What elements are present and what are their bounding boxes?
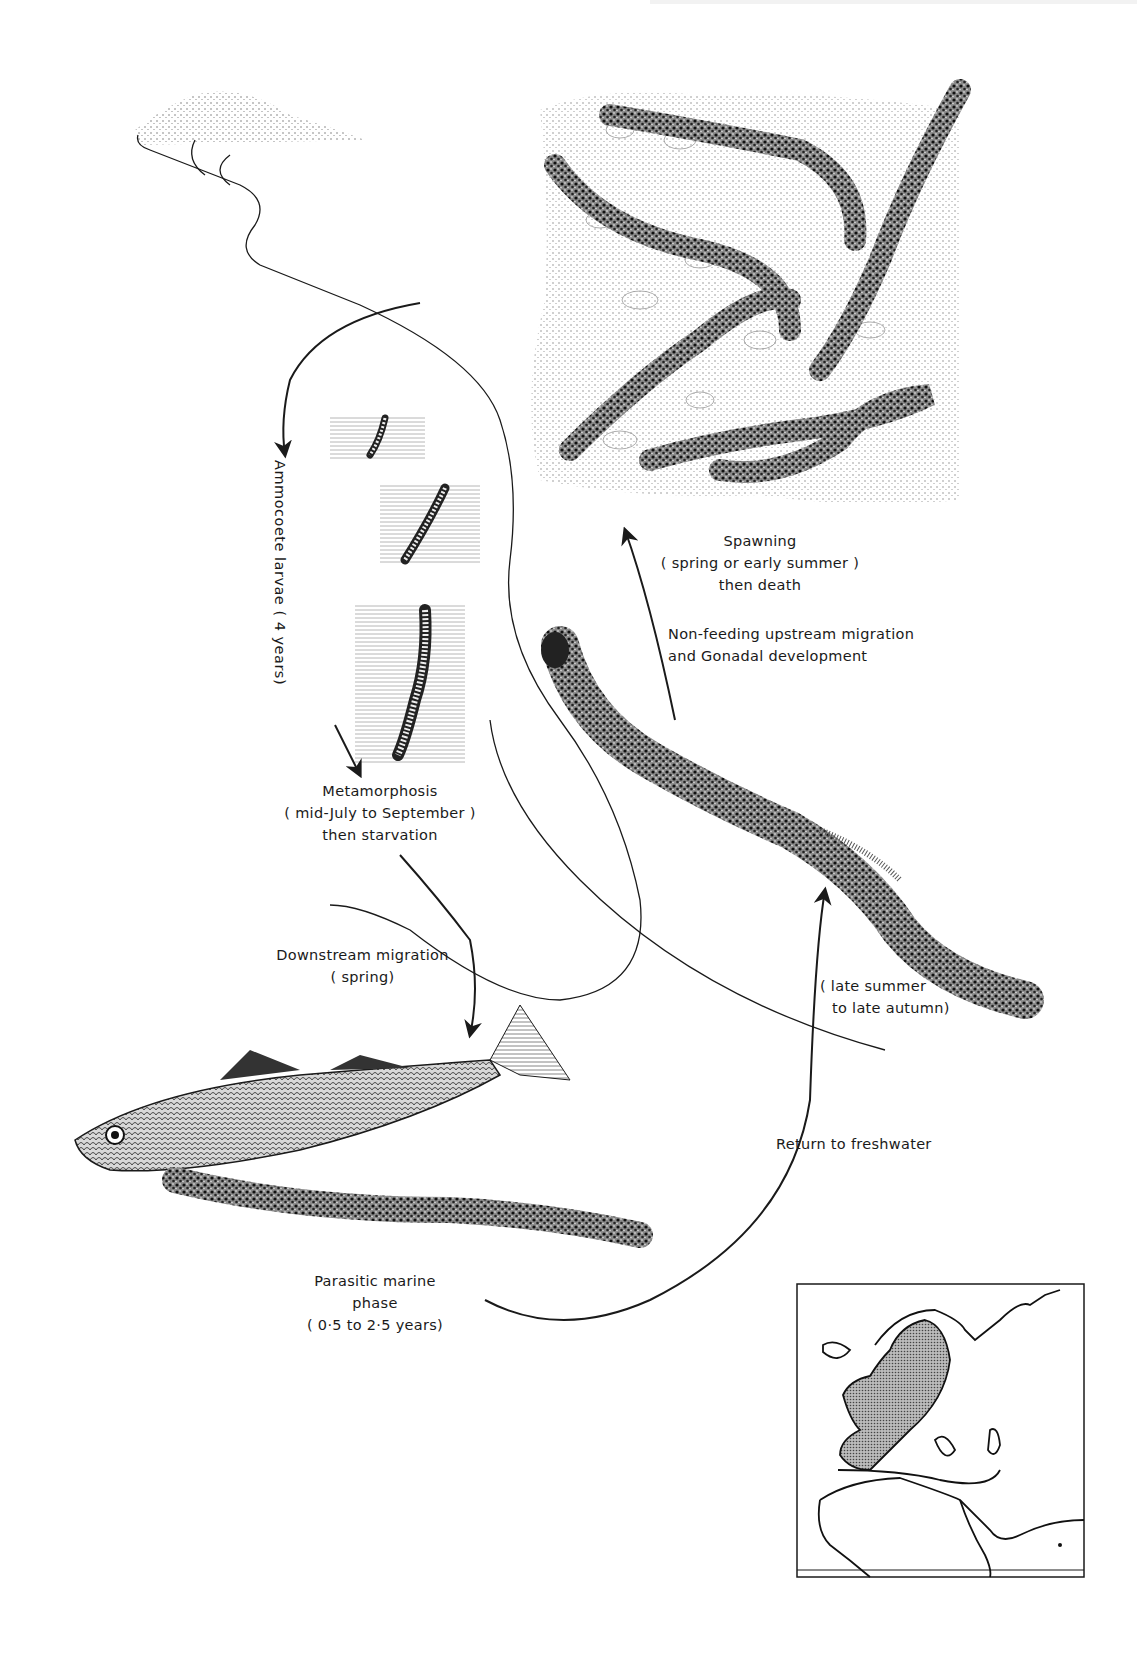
parasitic-lamprey: [175, 1180, 640, 1235]
spawning-ground: [531, 90, 960, 504]
label-downstream-migration: Downstream migration ( spring): [265, 944, 460, 988]
spawning-outcome: then death: [640, 574, 880, 596]
ammocoete-burrows: [330, 415, 480, 765]
parasitic-duration: ( 0·5 to 2·5 years): [290, 1314, 460, 1336]
return-text: Return to freshwater: [776, 1133, 932, 1155]
distribution-map: [797, 1284, 1084, 1577]
parasitic-title: Parasitic marine: [290, 1270, 460, 1292]
upstream-line-1: Non-feeding upstream migration: [668, 623, 914, 645]
illustration-canvas: [0, 0, 1137, 1663]
return-period-line-1: ( late summer: [820, 975, 950, 997]
downstream-line-1: Downstream migration: [265, 944, 460, 966]
parasitic-subtitle: phase: [290, 1292, 460, 1314]
metamorphosis-period: ( mid-July to September ): [270, 802, 490, 824]
label-return-period: ( late summer to late autumn): [820, 975, 950, 1019]
hill-source: [135, 91, 365, 145]
return-period-line-2: to late autumn): [820, 997, 950, 1019]
label-ammocoete-larvae: Ammocoete larvae ( 4 years): [272, 460, 288, 685]
label-spawning: Spawning ( spring or early summer ) then…: [640, 530, 880, 596]
upstream-line-2: and Gonadal development: [668, 645, 914, 667]
label-return-to-freshwater: Return to freshwater: [776, 1133, 932, 1155]
label-upstream-migration: Non-feeding upstream migration and Gonad…: [668, 623, 914, 667]
label-parasitic-phase: Parasitic marine phase ( 0·5 to 2·5 year…: [290, 1270, 460, 1336]
spawning-title: Spawning: [640, 530, 880, 552]
downstream-line-2: ( spring): [265, 966, 460, 988]
host-fish: [75, 1005, 570, 1171]
spawning-season: ( spring or early summer ): [640, 552, 880, 574]
label-metamorphosis: Metamorphosis ( mid-July to September ) …: [270, 780, 490, 846]
metamorphosis-outcome: then starvation: [270, 824, 490, 846]
adult-upstream-lamprey: [541, 632, 1025, 1000]
metamorphosis-title: Metamorphosis: [270, 780, 490, 802]
